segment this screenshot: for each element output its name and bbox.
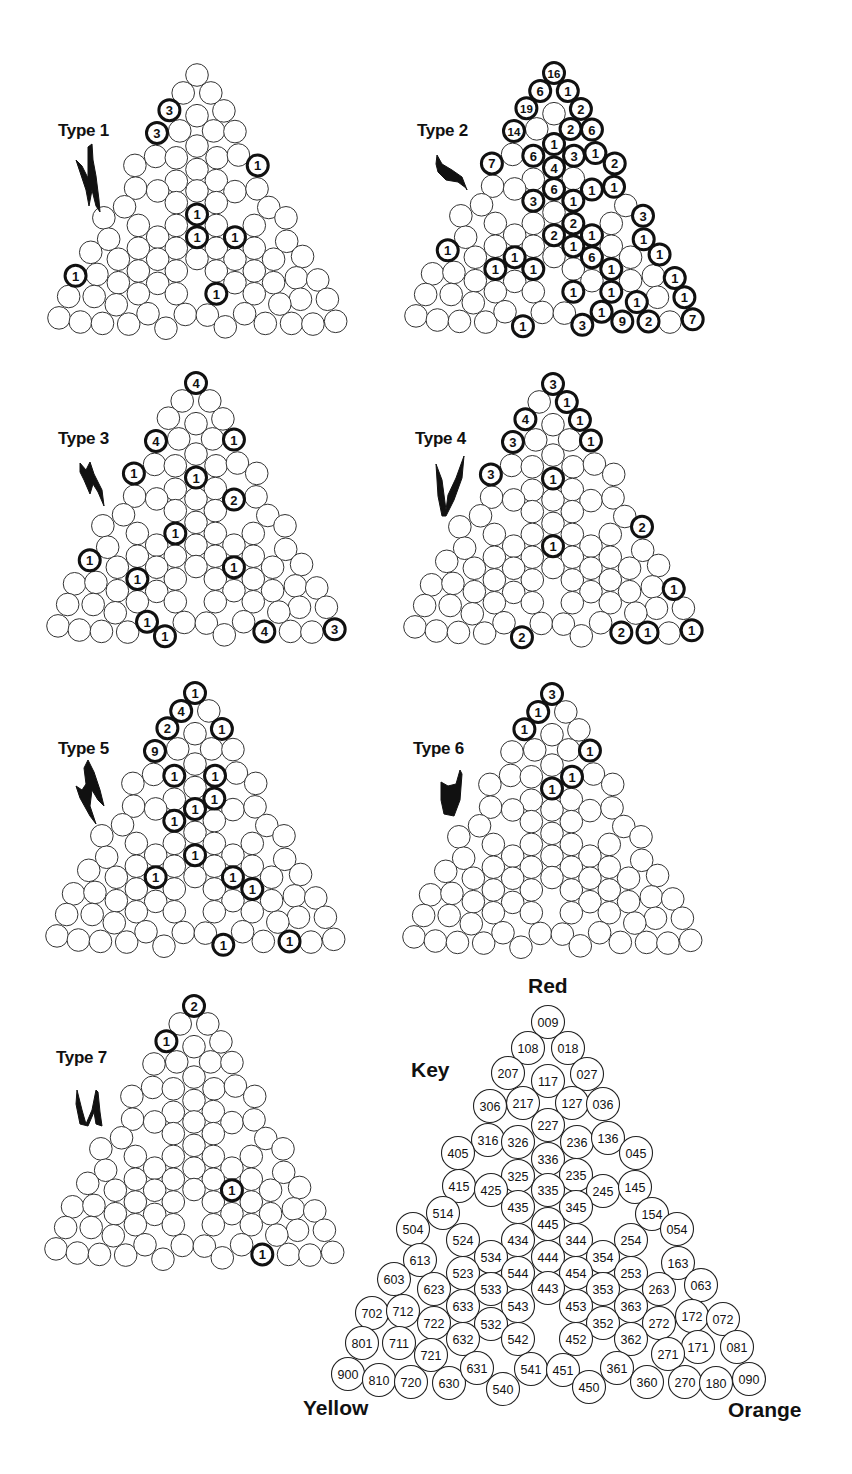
count-value: 1 [444,243,451,258]
key-code: 270 [675,1376,696,1390]
count-circle: 1 [186,467,207,488]
count-value: 1 [286,934,293,949]
count-circle: 3 [502,431,523,452]
empty-circle [266,1224,289,1247]
empty-circle [562,456,585,479]
empty-circle [185,488,208,511]
empty-circle [288,1176,311,1199]
empty-circle [277,1243,300,1266]
empty-circle [110,1126,133,1149]
key-circle: 172 [676,1300,709,1333]
key-title: Key [411,1058,450,1082]
key-circle: 541 [515,1353,548,1386]
empty-circle [104,1202,127,1225]
count-value: 4 [522,412,530,427]
empty-circle [203,1078,226,1101]
count-value: 1 [568,770,575,785]
key-code: 524 [453,1234,474,1248]
empty-circle [449,516,472,539]
empty-circle [127,260,150,283]
count-circle: 1 [557,80,578,101]
empty-circle [183,1134,206,1157]
count-circle: 4 [254,621,275,642]
empty-circle [144,145,167,168]
empty-circle [205,191,228,214]
empty-circle [241,832,264,855]
type-1-glyph-icon [76,144,100,212]
empty-circle [600,212,623,235]
empty-circle [127,214,150,237]
empty-circle [447,621,470,644]
empty-circle [45,1238,68,1261]
empty-circle [521,500,544,523]
empty-circle [137,302,160,325]
empty-circle [61,1195,84,1218]
key-code: 360 [637,1376,658,1390]
empty-circle [324,310,347,333]
empty-circle [275,207,298,230]
key-circle: 450 [573,1371,606,1404]
count-value: 4 [192,376,200,391]
count-value: 2 [550,228,557,243]
empty-circle [54,1216,77,1239]
empty-circle [259,1179,282,1202]
empty-circle [541,845,564,868]
empty-circle [599,523,622,546]
empty-circle [242,568,265,591]
count-circle: 1 [601,281,622,302]
empty-circle [302,313,325,336]
count-value: 1 [640,232,647,247]
empty-circle [167,428,190,451]
empty-circle [93,207,116,230]
count-circle: 1 [637,622,658,643]
count-circle: 1 [563,190,584,211]
count-circle: 1 [213,934,234,955]
count-circle: 3 [542,684,563,705]
count-circle: 1 [185,845,206,866]
empty-circle [421,262,444,285]
key-code: 532 [481,1318,502,1332]
empty-circle [210,1031,233,1054]
empty-circle [186,247,209,270]
empty-circle [316,288,339,311]
key-code: 018 [558,1042,579,1056]
count-value: 1 [213,287,220,302]
count-circle: 1 [224,227,245,248]
count-value: 2 [567,122,574,137]
empty-circle [413,594,436,617]
count-value: 1 [598,305,605,320]
empty-circle [439,594,462,617]
empty-circle [321,1241,344,1264]
empty-circle [91,312,114,335]
empty-circle [625,602,648,625]
count-circle: 1 [523,258,544,279]
empty-circle [105,889,128,912]
key-code: 108 [518,1042,539,1056]
count-circle: 2 [611,622,632,643]
key-code: 453 [566,1300,587,1314]
panel-label-type-3: Type 3 [58,429,109,449]
empty-circle [206,147,229,170]
count-circle: 1 [585,143,606,164]
empty-circle [267,911,290,934]
empty-circle [69,311,92,334]
count-circle: 1 [279,931,300,952]
empty-circle [80,1216,103,1239]
count-value: 2 [164,721,171,736]
empty-circle [185,555,208,578]
empty-circle [287,906,310,929]
key-circle: 542 [502,1323,535,1356]
key-circle: 335 [532,1174,565,1207]
empty-circle [125,878,148,901]
key-circle: 435 [502,1191,535,1224]
count-circle: 1 [681,620,702,641]
key-code: 326 [508,1136,529,1150]
empty-circle [66,1242,89,1265]
empty-circle [124,1213,147,1236]
empty-circle [290,553,313,576]
empty-circle [56,593,79,616]
key-code: 801 [352,1337,373,1351]
empty-circle [420,573,443,596]
count-circle: 1 [580,430,601,451]
count-value: 3 [579,318,586,333]
